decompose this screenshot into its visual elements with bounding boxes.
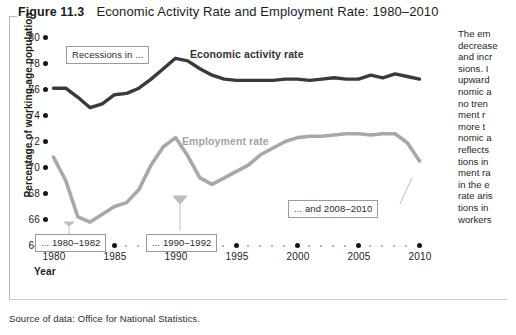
x-minor-dot <box>247 245 249 247</box>
callout-leader-1990 <box>173 196 187 231</box>
commentary-text: The emdecreaseand incrsions. Iupwardnomi… <box>458 28 516 268</box>
source-note: Source of data: Office for National Stat… <box>9 313 200 324</box>
callout-recession-2008-2010: ... and 2008–2010 <box>288 200 378 218</box>
y-tick-dot-68 <box>43 191 48 196</box>
y-tick-dot-76 <box>43 87 48 92</box>
y-tick-dot-78 <box>43 61 48 66</box>
x-tick-label-2000: 2000 <box>278 251 318 262</box>
x-minor-dot <box>369 245 371 247</box>
x-tick-dot-2010 <box>417 243 422 248</box>
x-minor-dot <box>283 245 285 247</box>
y-tick-dot-74 <box>43 113 48 118</box>
x-tick-label-1985: 1985 <box>95 251 135 262</box>
commentary-line: workers <box>458 214 516 226</box>
commentary-line: nomic a <box>458 86 516 98</box>
commentary-line: reflects <box>458 144 516 156</box>
commentary-line: ment ra <box>458 167 516 179</box>
y-tick-dot-70 <box>43 165 48 170</box>
commentary-line: nomic a <box>458 132 516 144</box>
callout-recession-1980-1982: ... 1980–1982 <box>35 234 106 252</box>
x-tick-dot-1985 <box>112 243 117 248</box>
commentary-line: more t <box>458 121 516 133</box>
frame-bottom-rule <box>9 299 507 300</box>
x-tick-label-1995: 1995 <box>217 251 257 262</box>
x-minor-dot <box>332 245 334 247</box>
x-minor-dot <box>393 245 395 247</box>
y-tick-dot-72 <box>43 139 48 144</box>
y-tick-label-76: 76 <box>14 84 40 95</box>
commentary-line: in the e <box>458 179 516 191</box>
figure-header: Figure 11.3 Economic Activity Rate and E… <box>18 4 488 24</box>
x-minor-dot <box>320 245 322 247</box>
x-axis-title: Year <box>34 266 56 277</box>
commentary-line: no tren <box>458 98 516 110</box>
series-label-economic-activity-rate: Economic activity rate <box>190 48 304 60</box>
x-minor-dot <box>222 245 224 247</box>
y-tick-label-80: 80 <box>14 32 40 43</box>
commentary-line: tions in <box>458 202 516 214</box>
x-minor-dot <box>137 245 139 247</box>
y-tick-label-78: 78 <box>14 58 40 69</box>
x-tick-dot-2000 <box>295 243 300 248</box>
x-minor-dot <box>344 245 346 247</box>
x-minor-dot <box>405 245 407 247</box>
frame-top-tick <box>9 16 17 17</box>
x-tick-label-1980: 1980 <box>34 251 74 262</box>
page-title: Economic Activity Rate and Employment Ra… <box>96 4 438 19</box>
y-tick-label-72: 72 <box>14 136 40 147</box>
y-tick-dot-66 <box>43 217 48 222</box>
x-minor-dot <box>381 245 383 247</box>
callout-recession-1990-1992: ... 1990–1992 <box>146 234 217 252</box>
commentary-line: decrease <box>458 40 516 52</box>
commentary-line: tions in <box>458 156 516 168</box>
x-minor-dot <box>308 245 310 247</box>
commentary-line: ment r <box>458 109 516 121</box>
x-tick-label-2010: 2010 <box>400 251 440 262</box>
x-minor-dot <box>125 245 127 247</box>
x-tick-dot-2005 <box>356 243 361 248</box>
x-tick-label-2005: 2005 <box>339 251 379 262</box>
commentary-line: rate aris <box>458 190 516 202</box>
commentary-line: and incr <box>458 51 516 63</box>
line-economic-activity-rate <box>54 58 420 107</box>
y-tick-label-70: 70 <box>14 162 40 173</box>
x-minor-dot <box>259 245 261 247</box>
x-tick-dot-1995 <box>234 243 239 248</box>
y-tick-label-74: 74 <box>14 110 40 121</box>
y-tick-dot-80 <box>43 35 48 40</box>
callout-recessions: Recessions in ... <box>66 46 149 64</box>
x-tick-label-1990: 1990 <box>156 251 196 262</box>
callout-leader-2008 <box>400 178 412 204</box>
y-tick-label-68: 68 <box>14 188 40 199</box>
commentary-line: upward <box>458 74 516 86</box>
x-minor-dot <box>271 245 273 247</box>
figure-container: Figure 11.3 Economic Activity Rate and E… <box>0 0 516 335</box>
commentary-line: The em <box>458 28 516 40</box>
y-tick-label-66: 66 <box>14 214 40 225</box>
chart-plot-area: Percentage of working-age population 80 … <box>0 26 432 291</box>
series-label-employment-rate: Employment rate <box>182 135 269 147</box>
commentary-line: sions. I <box>458 63 516 75</box>
